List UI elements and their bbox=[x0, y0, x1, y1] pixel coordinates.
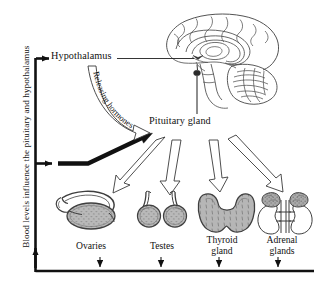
thyroid-label-line2: gland bbox=[196, 245, 248, 256]
adrenal-label-line2: glands bbox=[252, 245, 312, 256]
arrow-to-testes bbox=[160, 140, 181, 195]
ovaries-label-line1: Ovaries bbox=[76, 240, 106, 251]
brain-illustration bbox=[167, 14, 279, 108]
ovary-illustration bbox=[56, 191, 115, 229]
thyroid-label-line1: Thyroid bbox=[207, 234, 238, 245]
releasing-hormones-label: Releasing hormones bbox=[91, 70, 136, 130]
hypothalamus-label: Hypothalamus bbox=[51, 51, 112, 61]
organ-feedback-arrows bbox=[100, 257, 278, 267]
thyroid-illustration bbox=[198, 194, 254, 232]
endocrine-feedback-diagram: Releasing hormones bbox=[0, 0, 323, 300]
thyroid-gland-label: Thyroid gland bbox=[196, 234, 248, 256]
ovaries-label: Ovaries bbox=[60, 240, 122, 251]
adrenal-label-line1: Adrenal bbox=[267, 234, 298, 245]
adrenal-glands-label: Adrenal glands bbox=[252, 234, 312, 256]
pituitary-gland-label: Pituitary gland bbox=[149, 116, 211, 126]
arrow-to-ovaries bbox=[113, 137, 165, 193]
testes-label-line1: Testes bbox=[150, 240, 174, 251]
feedback-loop-caption: Blood levels influence the pituitary and… bbox=[22, 22, 31, 272]
arrow-to-adrenal bbox=[228, 135, 283, 192]
testes-illustration bbox=[138, 191, 187, 227]
adrenal-glands-illustration bbox=[258, 193, 312, 234]
tropic-hormone-arrows bbox=[113, 135, 283, 195]
testes-label: Testes bbox=[134, 240, 190, 251]
arrow-to-thyroid bbox=[209, 140, 228, 192]
